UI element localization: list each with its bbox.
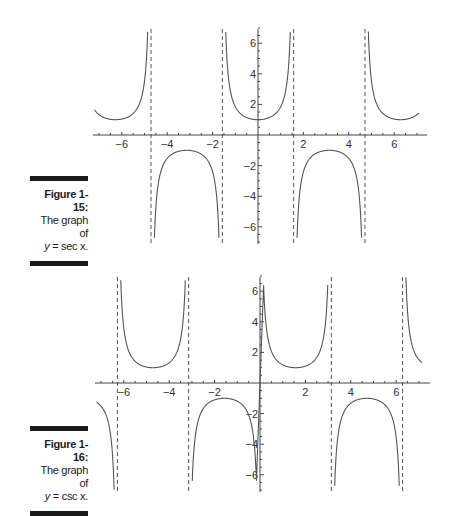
x-tick-label: −6: [116, 138, 129, 150]
y-tick-label: −4: [243, 190, 256, 202]
x-tick-label: 4: [346, 138, 352, 150]
x-tick-label: −4: [163, 386, 176, 398]
figure-number: Figure 1-16:: [30, 438, 88, 464]
x-tick-label: −6: [118, 386, 131, 398]
y-tick-label: −2: [245, 408, 258, 420]
curve-branch: [335, 398, 400, 486]
x-tick-label: −4: [161, 138, 174, 150]
x-tick-label: −2: [206, 138, 219, 150]
curve-branch: [95, 32, 148, 120]
curve-branch: [121, 280, 186, 368]
y-tick-label: −4: [245, 438, 258, 450]
y-tick-label: 6: [252, 285, 258, 297]
x-tick-label: 6: [393, 386, 399, 398]
caption-line: The graph of: [30, 464, 88, 490]
y-tick-label: −6: [243, 221, 256, 233]
y-tick-label: 2: [250, 98, 256, 110]
curve-branch: [97, 402, 115, 489]
figure-caption-1-15: Figure 1-15: The graph of y = sec x.: [30, 176, 88, 266]
caption-divider: [30, 511, 88, 516]
caption-equation: y = csc x.: [30, 490, 88, 503]
caption-divider: [30, 261, 88, 266]
x-tick-label: 2: [302, 386, 308, 398]
curve-branch: [406, 277, 422, 362]
y-tick-label: −2: [243, 160, 256, 172]
curve-branch: [368, 32, 419, 120]
caption-line: The graph of: [30, 214, 88, 240]
y-tick-label: 2: [252, 346, 258, 358]
x-tick-label: 6: [391, 138, 397, 150]
x-tick-label: 4: [348, 386, 354, 398]
x-tick-label: 2: [300, 138, 306, 150]
caption-equation: y = sec x.: [30, 240, 88, 253]
y-tick-label: 6: [250, 37, 256, 49]
y-tick-label: 4: [252, 316, 258, 328]
figure-caption-1-16: Figure 1-16: The graph of y = csc x.: [30, 426, 88, 516]
figure-number: Figure 1-15:: [30, 188, 88, 214]
y-tick-label: 4: [250, 68, 256, 80]
x-tick-label: −2: [208, 386, 221, 398]
curve-branch: [154, 150, 219, 237]
curve-branch: [297, 150, 362, 237]
